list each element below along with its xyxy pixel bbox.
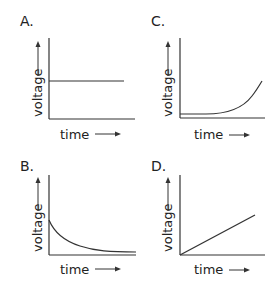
decay-curve <box>49 220 136 252</box>
right-arrow-icon <box>115 267 121 272</box>
growth-curve <box>180 81 262 114</box>
up-arrow-icon <box>166 41 171 47</box>
panel-a: A. voltage time <box>0 0 138 146</box>
up-arrow-icon <box>36 177 41 183</box>
panel-c-graph: voltage time <box>131 0 276 146</box>
x-axis-label: time <box>194 127 223 142</box>
right-arrow-icon <box>244 268 250 273</box>
right-arrow-icon <box>115 132 121 137</box>
x-axis-label: time <box>60 127 89 142</box>
panel-c: C. voltage time <box>131 0 269 146</box>
panel-b: B. voltage time <box>0 146 138 292</box>
right-arrow-icon <box>244 133 250 138</box>
panel-d: D. voltage time <box>131 146 269 292</box>
linear-curve <box>180 215 255 255</box>
up-arrow-icon <box>166 177 171 183</box>
up-arrow-icon <box>36 41 41 47</box>
panel-a-graph: voltage time <box>0 0 138 146</box>
panel-d-graph: voltage time <box>131 146 276 293</box>
panel-b-graph: voltage time <box>0 146 138 293</box>
x-axis-label: time <box>60 262 89 277</box>
x-axis-label: time <box>194 262 223 277</box>
